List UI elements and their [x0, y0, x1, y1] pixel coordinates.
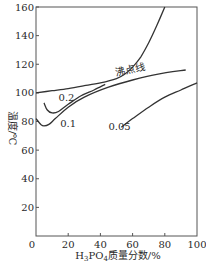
y-tick-label: 120 — [15, 59, 34, 70]
x-tick-label: 20 — [62, 239, 75, 250]
curve-label: 沸点线 — [114, 60, 146, 78]
curve-label: 0.2 — [59, 92, 75, 103]
curve-0.05 — [121, 83, 197, 127]
curve-label: 0.05 — [108, 121, 130, 132]
curve-沸点线 — [36, 7, 165, 93]
y-tick-label: 160 — [15, 2, 34, 13]
chart: 20406080100120140160020406080100 沸点线0.20… — [0, 0, 206, 266]
x-tick-label: 0 — [29, 239, 35, 250]
y-tick-label: 80 — [21, 116, 34, 127]
curve-0.2 — [44, 84, 105, 113]
y-tick-label: 140 — [15, 30, 34, 41]
curve-labels: 沸点线0.20.10.05 — [59, 60, 147, 132]
x-tick-label: 40 — [94, 239, 107, 250]
x-tick-label: 80 — [158, 239, 171, 250]
curve-label: 0.1 — [60, 118, 76, 129]
y-tick-label: 40 — [21, 173, 34, 184]
x-tick-label: 100 — [187, 239, 206, 250]
y-tick-label: 20 — [21, 202, 34, 213]
y-tick-label: 100 — [15, 87, 34, 98]
y-axis-title: 温度/℃ — [7, 111, 19, 146]
chart-svg: 20406080100120140160020406080100 沸点线0.20… — [0, 0, 206, 266]
y-tick-label: 60 — [21, 145, 34, 156]
x-axis-title: H3PO4质量分数/% — [75, 249, 160, 263]
x-tick-label: 60 — [126, 239, 139, 250]
